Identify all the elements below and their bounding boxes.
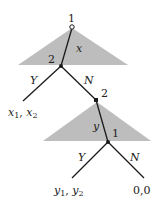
edge-label-yes-1: Y bbox=[30, 74, 39, 87]
edge-label-no-2: N bbox=[129, 151, 140, 164]
player-label-node2b: 2 bbox=[101, 87, 108, 100]
payoff-first-yes: x1, x2 bbox=[8, 106, 38, 120]
action-var-x: x bbox=[76, 42, 83, 55]
root-node bbox=[70, 25, 74, 29]
payoff-second-no: 0,0 bbox=[133, 184, 151, 197]
action-var-y: y bbox=[92, 120, 100, 133]
player-label-node1b: 1 bbox=[112, 127, 119, 140]
edge-label-no-1: N bbox=[83, 74, 94, 87]
edge-yes-1 bbox=[23, 66, 61, 101]
decision-node-2a bbox=[59, 64, 63, 68]
payoff-second-yes: y1, y2 bbox=[53, 184, 84, 198]
player-label-root: 1 bbox=[68, 12, 75, 25]
decision-node-1b bbox=[106, 140, 110, 144]
decision-node-2b bbox=[94, 98, 98, 102]
edge-label-yes-2: Y bbox=[78, 151, 87, 164]
info-set-triangle-1 bbox=[18, 28, 128, 65]
game-tree-diagram: 1 2 2 1 x y Y N Y N x1, x2 y1, y2 0,0 bbox=[0, 0, 164, 210]
player-label-node2a: 2 bbox=[48, 53, 55, 66]
